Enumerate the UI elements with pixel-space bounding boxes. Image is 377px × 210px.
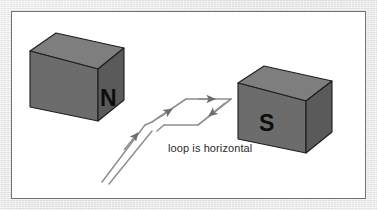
south-magnet <box>238 66 332 153</box>
loop-orientation-caption: loop is horizontal <box>168 142 252 154</box>
loop-arrowheads <box>158 99 225 118</box>
lead-wire-upper <box>102 125 145 182</box>
diagram-svg <box>12 12 367 200</box>
loop-step-a <box>157 125 164 131</box>
south-pole-label: S <box>259 112 274 135</box>
current-loop <box>145 99 231 131</box>
loop-step-b <box>145 122 152 125</box>
right-edge-arrow <box>209 103 225 116</box>
lead-wire-arrow <box>124 133 138 150</box>
lead-wire-lower <box>109 131 152 184</box>
lead-wires <box>102 125 152 184</box>
figure-frame: N S loop is horizontal <box>11 11 366 199</box>
north-pole-label: N <box>100 87 117 110</box>
figure-canvas: N S loop is horizontal <box>0 0 377 210</box>
left-edge-arrow <box>158 109 172 118</box>
